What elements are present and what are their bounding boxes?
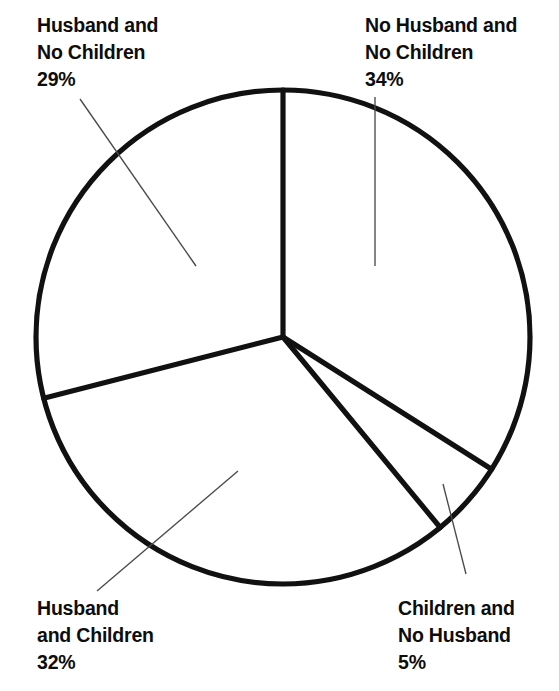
slice-divider-right-lower bbox=[283, 337, 440, 528]
slice-label-line2: No Husband bbox=[398, 624, 511, 646]
slice-percent-value: 29% bbox=[37, 66, 158, 93]
slice-label-children-no-husband: Children and No Husband 5% bbox=[398, 595, 515, 676]
pie-chart-graphic bbox=[0, 0, 559, 691]
pie-chart-figure: Husband and No Children 29% No Husband a… bbox=[0, 0, 559, 691]
leader-line-children-no-husband bbox=[443, 484, 466, 574]
slice-label-line2: No Children bbox=[37, 41, 145, 63]
slice-label-husband-no-children: Husband and No Children 29% bbox=[37, 12, 158, 93]
slice-percent-value: 34% bbox=[365, 66, 517, 93]
slice-label-line1: Children and bbox=[398, 597, 515, 619]
slice-label-line2: No Children bbox=[365, 41, 473, 63]
slice-label-line1: Husband bbox=[37, 597, 119, 619]
slice-label-line2: and Children bbox=[37, 624, 154, 646]
slice-percent-value: 5% bbox=[398, 649, 515, 676]
slice-divider-right-upper bbox=[283, 337, 492, 469]
slice-label-line1: No Husband and bbox=[365, 14, 517, 36]
slice-label-no-husband-no-children: No Husband and No Children 34% bbox=[365, 12, 517, 93]
slice-percent-value: 32% bbox=[37, 649, 154, 676]
slice-label-line1: Husband and bbox=[37, 14, 158, 36]
slice-divider-left bbox=[44, 337, 283, 398]
leader-line-husband-no-children bbox=[80, 99, 196, 266]
slice-label-husband-and-children: Husband and Children 32% bbox=[37, 595, 154, 676]
